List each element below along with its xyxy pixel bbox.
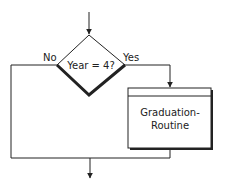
no-branch-line (11, 65, 57, 158)
process-text-line1: Graduation- (140, 107, 200, 118)
no-label: No (43, 52, 57, 63)
yes-branch-arrow (125, 65, 170, 87)
flowchart-canvas: Year = 4? No Yes Graduation- Routine (0, 0, 229, 194)
decision-text: Year = 4? (66, 60, 115, 71)
process-box: Graduation- Routine (128, 88, 213, 150)
merge-line (11, 150, 170, 158)
yes-label: Yes (122, 52, 139, 63)
decision-diamond: Year = 4? (57, 35, 125, 95)
process-text-line2: Routine (151, 120, 189, 131)
